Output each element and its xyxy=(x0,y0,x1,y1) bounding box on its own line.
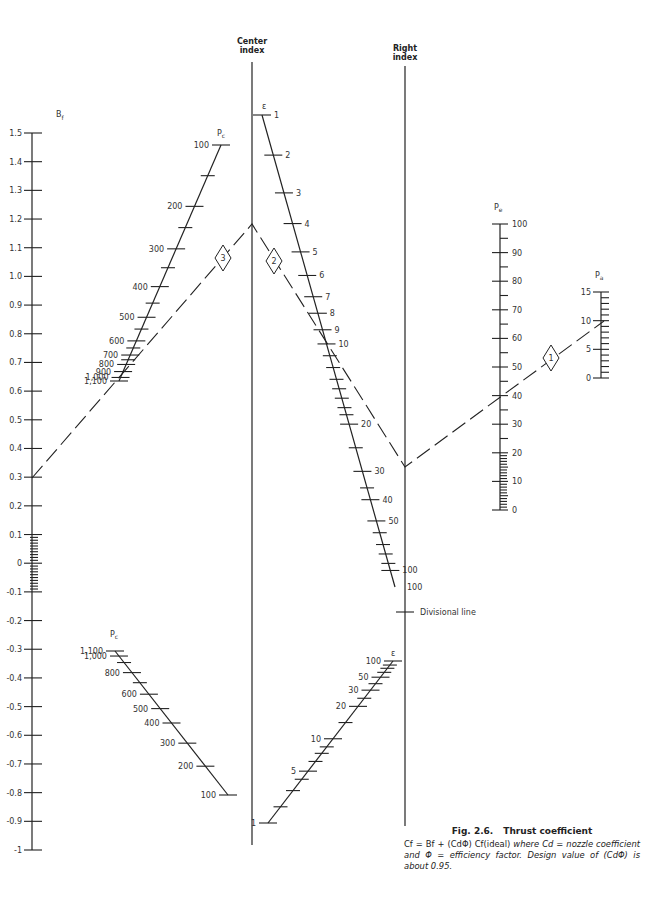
svg-text:0.6: 0.6 xyxy=(9,387,22,396)
svg-text:-0.3: -0.3 xyxy=(6,645,22,654)
svg-text:1.3: 1.3 xyxy=(9,186,22,195)
epsilon-lower-scale: 1510203050100 xyxy=(251,657,402,828)
svg-text:-0.2: -0.2 xyxy=(6,617,22,626)
svg-text:40: 40 xyxy=(382,496,392,505)
center-index-label-1: Center xyxy=(237,37,267,46)
svg-text:0.7: 0.7 xyxy=(9,358,22,367)
right-100-label: 100 xyxy=(407,583,422,592)
svg-text:-1: -1 xyxy=(14,846,22,855)
svg-text:500: 500 xyxy=(119,313,134,322)
svg-text:10: 10 xyxy=(339,340,349,349)
epsilon-upper-scale: 1234567891020304050100 xyxy=(253,111,418,587)
pc-upper-label: Pc xyxy=(217,129,225,139)
svg-text:1: 1 xyxy=(274,111,279,120)
pe-label: Pe xyxy=(494,203,503,213)
svg-text:3: 3 xyxy=(220,254,225,263)
svg-text:2: 2 xyxy=(285,151,290,160)
svg-text:100: 100 xyxy=(402,566,417,575)
svg-text:30: 30 xyxy=(512,420,522,429)
svg-text:300: 300 xyxy=(149,245,164,254)
svg-text:1: 1 xyxy=(251,819,256,828)
svg-text:0.4: 0.4 xyxy=(9,444,22,453)
svg-text:600: 600 xyxy=(122,690,137,699)
svg-text:40: 40 xyxy=(512,392,522,401)
svg-text:50: 50 xyxy=(388,517,398,526)
svg-text:50: 50 xyxy=(512,363,522,372)
svg-text:0: 0 xyxy=(17,559,22,568)
epsilon-lower-label: ε xyxy=(391,649,395,658)
svg-text:-0.6: -0.6 xyxy=(6,731,22,740)
svg-text:15: 15 xyxy=(581,288,591,297)
svg-text:1.4: 1.4 xyxy=(9,158,22,167)
svg-text:0: 0 xyxy=(586,374,591,383)
svg-text:0.8: 0.8 xyxy=(9,330,22,339)
svg-text:0: 0 xyxy=(512,506,517,515)
svg-text:20: 20 xyxy=(361,420,371,429)
bf-label: Bf xyxy=(56,110,65,121)
svg-text:30: 30 xyxy=(348,686,358,695)
svg-text:10: 10 xyxy=(581,317,591,326)
svg-text:-0.8: -0.8 xyxy=(6,789,22,798)
divisional-line-label: Divisional line xyxy=(420,608,476,617)
svg-text:6: 6 xyxy=(319,271,324,280)
epsilon-upper-label: ε xyxy=(262,102,266,111)
svg-text:1.2: 1.2 xyxy=(9,215,22,224)
svg-text:800: 800 xyxy=(105,669,120,678)
figure-title: Fig. 2.6.Thrust coefficient xyxy=(404,826,640,837)
pc-lower-scale: 1,1001,000800600500400300200100 xyxy=(80,647,237,800)
svg-text:100: 100 xyxy=(366,657,381,666)
step-1-marker: 1 xyxy=(543,345,559,371)
svg-text:-0.5: -0.5 xyxy=(6,703,22,712)
svg-text:20: 20 xyxy=(512,449,522,458)
pc-upper-scale: 1002003004005006007008009001,0001,100 xyxy=(84,141,230,386)
pa-label: Pa xyxy=(595,271,604,281)
svg-text:1,000: 1,000 xyxy=(84,652,107,661)
svg-text:90: 90 xyxy=(512,249,522,258)
svg-text:200: 200 xyxy=(178,762,193,771)
svg-text:20: 20 xyxy=(336,702,346,711)
svg-text:1.0: 1.0 xyxy=(9,272,22,281)
svg-text:4: 4 xyxy=(305,220,310,229)
svg-text:5: 5 xyxy=(313,248,318,257)
svg-text:-0.1: -0.1 xyxy=(6,588,22,597)
svg-text:200: 200 xyxy=(167,202,182,211)
svg-text:1.1: 1.1 xyxy=(9,244,22,253)
svg-text:1,100: 1,100 xyxy=(84,377,107,386)
step-3-marker: 3 xyxy=(215,245,231,271)
svg-text:7: 7 xyxy=(325,293,330,302)
svg-text:9: 9 xyxy=(335,326,340,335)
svg-text:-0.9: -0.9 xyxy=(6,817,22,826)
svg-text:500: 500 xyxy=(133,705,148,714)
svg-text:3: 3 xyxy=(296,189,301,198)
svg-text:100: 100 xyxy=(201,791,216,800)
pc-lower-label: Pc xyxy=(110,630,118,640)
figure-caption: Fig. 2.6.Thrust coefficient Cf = Bf + (C… xyxy=(404,826,640,872)
svg-text:0.2: 0.2 xyxy=(9,502,22,511)
svg-text:1.5: 1.5 xyxy=(9,129,22,138)
svg-text:400: 400 xyxy=(133,283,148,292)
pe-scale: 1009080706050403020100 xyxy=(492,220,527,515)
svg-text:70: 70 xyxy=(512,306,522,315)
svg-text:600: 600 xyxy=(109,337,124,346)
svg-text:30: 30 xyxy=(374,467,384,476)
bf-scale: 1.51.41.31.21.11.00.90.80.70.60.50.40.30… xyxy=(6,129,42,855)
step-2-marker: 2 xyxy=(266,248,282,274)
svg-text:50: 50 xyxy=(358,673,368,682)
svg-text:0.1: 0.1 xyxy=(9,531,22,540)
figure-caption-body: Cf = Bf + (CdΦ) Cf(ideal) where Cd = noz… xyxy=(404,839,640,872)
svg-text:10: 10 xyxy=(311,735,321,744)
svg-text:0.9: 0.9 xyxy=(9,301,22,310)
thrust-coefficient-nomogram: 1.51.41.31.21.11.00.90.80.70.60.50.40.30… xyxy=(0,0,659,917)
svg-text:0.3: 0.3 xyxy=(9,473,22,482)
svg-text:80: 80 xyxy=(512,277,522,286)
svg-text:-0.4: -0.4 xyxy=(6,674,22,683)
svg-text:100: 100 xyxy=(512,220,527,229)
svg-text:8: 8 xyxy=(330,309,335,318)
svg-text:700: 700 xyxy=(103,351,118,360)
svg-text:300: 300 xyxy=(160,739,175,748)
right-index-label-1: Right xyxy=(393,44,417,53)
svg-text:0.5: 0.5 xyxy=(9,416,22,425)
svg-text:100: 100 xyxy=(194,141,209,150)
svg-text:60: 60 xyxy=(512,334,522,343)
svg-text:2: 2 xyxy=(271,257,276,266)
